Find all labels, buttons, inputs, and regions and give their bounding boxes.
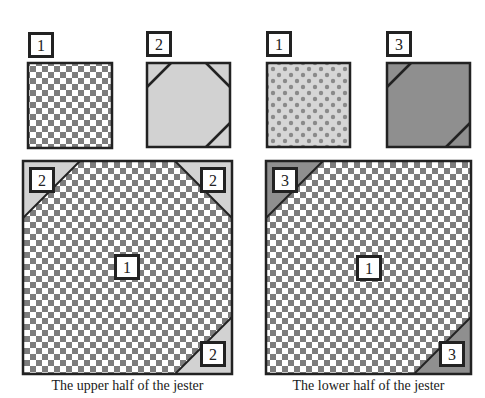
fabric-number-label: 2	[148, 33, 171, 56]
fabric-swatches: 1213	[28, 33, 470, 149]
corner-fabric-label: 2	[202, 343, 225, 366]
swatch-fabric-2: 2	[147, 33, 230, 148]
fabric-number-label: 1	[30, 34, 53, 57]
corner-fabric-label-number: 2	[209, 346, 217, 363]
diagram-canvas: 1213 2221331	[0, 0, 485, 398]
swatch-fabric-1-checker-fabric	[28, 63, 112, 148]
corner-fabric-label-number: 3	[448, 346, 456, 363]
fabric-number-label: 1	[268, 33, 291, 56]
lower-half-block: 331	[266, 161, 471, 374]
corner-fabric-label: 3	[274, 169, 297, 192]
quilt-blocks: 2221331	[23, 161, 471, 374]
center-fabric-label: 1	[358, 257, 381, 280]
fabric-number-label-number: 1	[275, 36, 283, 53]
swatch-fabric-1-dots-fabric	[267, 63, 350, 147]
corner-fabric-label: 2	[202, 169, 225, 192]
center-fabric-label: 1	[116, 256, 139, 279]
center-fabric-label-number: 1	[365, 260, 373, 277]
caption-upper-half: The upper half of the jester	[23, 378, 232, 394]
corner-fabric-label-number: 2	[209, 172, 217, 189]
upper-half-block: 2221	[23, 161, 232, 374]
swatch-fabric-1-dots: 1	[267, 33, 350, 148]
fabric-number-label-number: 3	[395, 36, 403, 53]
fabric-number-label-number: 2	[155, 36, 163, 53]
swatch-fabric-3: 3	[387, 33, 470, 148]
fabric-number-label-number: 1	[37, 37, 45, 54]
center-fabric-label-number: 1	[123, 259, 131, 276]
caption-lower-half: The lower half of the jester	[266, 378, 471, 394]
corner-fabric-label-number: 3	[281, 172, 289, 189]
swatch-fabric-1-checker: 1	[28, 34, 112, 149]
corner-fabric-label: 3	[441, 343, 464, 366]
corner-fabric-label: 2	[31, 169, 54, 192]
corner-fabric-label-number: 2	[38, 172, 46, 189]
quilt-jester-diagram: 1213 2221331 The upper half of the jeste…	[0, 0, 485, 398]
fabric-number-label: 3	[388, 33, 411, 56]
